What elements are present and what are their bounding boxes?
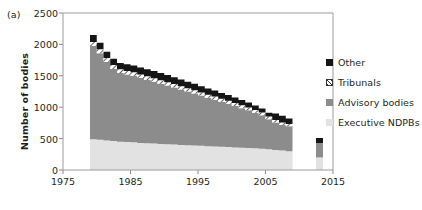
legend-swatch-icon bbox=[326, 119, 333, 126]
bar-other bbox=[316, 138, 323, 143]
legend-item-other[interactable]: Other bbox=[326, 54, 420, 71]
figure-panel-a: (a) Number of bodies 0500100015002000250… bbox=[0, 0, 422, 210]
legend-label: Tribunals bbox=[338, 77, 381, 88]
legend-label: Other bbox=[338, 57, 365, 68]
legend-swatch-icon bbox=[326, 59, 333, 66]
legend-label: Advisory bodies bbox=[338, 97, 414, 108]
chart-legend: OtherTribunalsAdvisory bodiesExecutive N… bbox=[326, 54, 420, 134]
bar-executive-ndpbs bbox=[316, 157, 323, 170]
legend-label: Executive NDPBs bbox=[338, 117, 420, 128]
legend-item-executive-ndpbs[interactable]: Executive NDPBs bbox=[326, 114, 420, 131]
area-advisory-bodies bbox=[90, 46, 293, 152]
stacked-area-series bbox=[90, 35, 323, 170]
legend-item-advisory-bodies[interactable]: Advisory bodies bbox=[326, 94, 420, 111]
legend-swatch-icon bbox=[326, 79, 333, 86]
legend-item-tribunals[interactable]: Tribunals bbox=[326, 74, 420, 91]
legend-swatch-icon bbox=[326, 99, 333, 106]
bar-advisory-bodies bbox=[316, 143, 323, 157]
